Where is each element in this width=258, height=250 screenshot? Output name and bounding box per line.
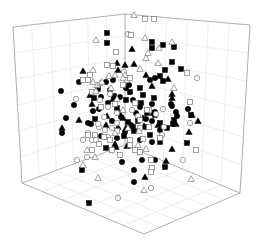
data-point-open-square bbox=[143, 17, 148, 22]
data-point-open-square bbox=[188, 100, 193, 105]
scatter-3d-chart bbox=[0, 0, 258, 250]
data-point-open-square bbox=[88, 73, 93, 78]
data-point-filled-square bbox=[132, 129, 137, 134]
data-point-filled-square bbox=[158, 74, 163, 79]
data-point-filled-square bbox=[170, 60, 175, 65]
box-edge bbox=[13, 27, 22, 183]
data-point-open-square bbox=[113, 102, 118, 107]
data-point-open-circle bbox=[74, 157, 79, 162]
data-point-open-square bbox=[194, 148, 199, 153]
data-point-open-circle bbox=[80, 137, 85, 142]
data-point-filled-triangle bbox=[131, 61, 137, 67]
data-point-open-square bbox=[129, 33, 134, 38]
data-point-open-circle bbox=[101, 114, 106, 119]
right-wall-gridline bbox=[202, 21, 209, 177]
data-point-open-square bbox=[118, 153, 123, 158]
data-point-filled-square bbox=[93, 117, 98, 122]
series-open-circle bbox=[73, 31, 199, 200]
data-point-open-square bbox=[90, 148, 95, 153]
data-point-open-circle bbox=[105, 104, 110, 109]
data-point-open-triangle bbox=[141, 187, 147, 193]
data-point-open-circle bbox=[95, 121, 100, 126]
data-point-filled-square bbox=[128, 90, 133, 95]
data-point-filled-circle bbox=[71, 102, 76, 107]
data-point-open-square bbox=[133, 101, 138, 106]
right-wall-gridline bbox=[221, 23, 229, 185]
data-point-filled-circle bbox=[149, 139, 154, 144]
data-point-open-square bbox=[110, 148, 115, 153]
data-point-filled-circle bbox=[185, 106, 190, 111]
data-point-open-square bbox=[102, 135, 107, 140]
data-point-filled-square bbox=[104, 146, 109, 151]
data-point-filled-triangle bbox=[165, 76, 171, 82]
data-point-open-circle bbox=[129, 107, 134, 112]
data-point-open-triangle bbox=[169, 39, 175, 45]
data-point-open-square bbox=[158, 136, 163, 141]
data-point-open-square bbox=[128, 76, 133, 81]
data-point-filled-triangle bbox=[169, 146, 175, 152]
data-point-filled-square bbox=[141, 93, 146, 98]
data-point-filled-square bbox=[150, 46, 155, 51]
data-point-filled-circle bbox=[131, 179, 136, 184]
data-point-open-square bbox=[138, 150, 143, 155]
data-point-open-circle bbox=[153, 111, 158, 116]
data-point-filled-square bbox=[163, 165, 168, 170]
data-point-filled-circle bbox=[59, 130, 64, 135]
data-point-open-square bbox=[128, 138, 133, 143]
data-point-open-triangle bbox=[143, 146, 149, 152]
data-point-open-square bbox=[141, 137, 146, 142]
data-point-filled-triangle bbox=[76, 117, 82, 123]
data-point-open-circle bbox=[115, 195, 120, 200]
data-point-filled-circle bbox=[119, 159, 124, 164]
data-point-open-square bbox=[97, 142, 102, 147]
data-point-filled-square bbox=[185, 141, 190, 146]
data-point-filled-square bbox=[122, 134, 127, 139]
data-points bbox=[58, 12, 201, 206]
data-point-open-square bbox=[81, 78, 86, 83]
data-point-filled-circle bbox=[147, 77, 152, 82]
series-filled-triangle bbox=[59, 46, 201, 180]
data-point-open-circle bbox=[114, 110, 119, 115]
data-point-open-square bbox=[93, 133, 98, 138]
data-point-filled-triangle bbox=[103, 122, 109, 128]
data-point-open-square bbox=[128, 143, 133, 148]
data-point-open-triangle bbox=[90, 67, 96, 73]
data-point-open-square bbox=[138, 118, 143, 123]
data-point-open-circle bbox=[102, 127, 107, 132]
data-point-filled-circle bbox=[169, 103, 174, 108]
data-point-open-circle bbox=[180, 157, 185, 162]
data-point-filled-triangle bbox=[163, 158, 169, 164]
data-point-filled-square bbox=[148, 133, 153, 138]
data-point-filled-circle bbox=[126, 82, 131, 87]
data-point-filled-square bbox=[161, 43, 166, 48]
data-point-open-circle bbox=[187, 120, 192, 125]
data-point-filled-square bbox=[152, 96, 157, 101]
data-point-open-circle bbox=[160, 106, 165, 111]
data-point-filled-square bbox=[139, 101, 144, 106]
data-point-filled-square bbox=[124, 98, 129, 103]
data-point-filled-triangle bbox=[80, 68, 86, 74]
data-point-open-square bbox=[149, 170, 154, 175]
data-point-open-square bbox=[145, 108, 150, 113]
data-point-open-square bbox=[149, 158, 154, 163]
data-point-filled-square bbox=[105, 31, 110, 36]
data-point-filled-circle bbox=[149, 118, 154, 123]
data-point-open-triangle bbox=[80, 162, 86, 168]
data-point-filled-triangle bbox=[142, 174, 148, 180]
data-point-open-circle bbox=[73, 96, 78, 101]
data-point-open-triangle bbox=[188, 176, 194, 182]
data-point-open-triangle bbox=[95, 175, 101, 181]
data-point-open-square bbox=[105, 63, 110, 68]
data-point-filled-triangle bbox=[59, 125, 65, 131]
data-point-open-square bbox=[108, 138, 113, 143]
data-point-filled-circle bbox=[152, 75, 157, 80]
data-point-filled-circle bbox=[63, 115, 68, 120]
data-point-open-square bbox=[111, 64, 116, 69]
box-edge bbox=[240, 25, 250, 193]
data-point-open-square bbox=[99, 105, 104, 110]
data-point-filled-circle bbox=[139, 157, 144, 162]
data-point-open-square bbox=[185, 71, 190, 76]
data-point-open-triangle bbox=[93, 37, 99, 43]
data-point-open-triangle bbox=[155, 60, 161, 66]
data-point-open-circle bbox=[109, 125, 114, 130]
